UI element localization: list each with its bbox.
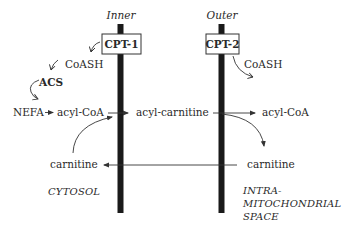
nefa-label: NEFA [13,106,44,118]
cytosol-region-label: CYTOSOL [48,186,100,197]
acyl-carnitine-label: acyl-carnitine [136,106,209,118]
intra-mito-line-1: INTRA- [242,185,282,196]
carnitine-into-cpt1-arrow [73,117,112,153]
intra-mito-line-3: SPACE [243,211,279,222]
cpt2-enzyme-box: CPT-2 [206,34,240,54]
cpt1-enzyme-box: CPT-1 [102,34,141,54]
inner-membrane-label: Inner [106,9,137,21]
cpt1-coash-arrow [91,42,100,52]
cytosol-coash-label: CoASH [65,58,103,70]
cpt1-label: CPT-1 [105,38,139,50]
cytosol-acyl-coa-label: acyl-CoA [57,106,104,118]
matrix-coash-label: CoASH [244,58,282,70]
coash-to-acs-arrow [51,60,58,70]
cpt2-label: CPT-2 [206,38,240,50]
carnitine-shuttle-diagram: Inner Outer CPT-1 CPT-2 CoASH ACS NEFA a… [0,0,349,229]
acs-curve-arrow [30,80,39,99]
acs-label: ACS [38,76,63,88]
matrix-carnitine-label: carnitine [247,158,295,170]
outer-membrane-label: Outer [207,9,239,21]
matrix-acyl-coa-label: acyl-CoA [262,106,309,118]
release-carnitine-arrow [222,114,264,146]
cytosol-carnitine-label: carnitine [50,158,98,170]
intra-mito-line-2: MITOCHONDRIAL [242,198,341,209]
